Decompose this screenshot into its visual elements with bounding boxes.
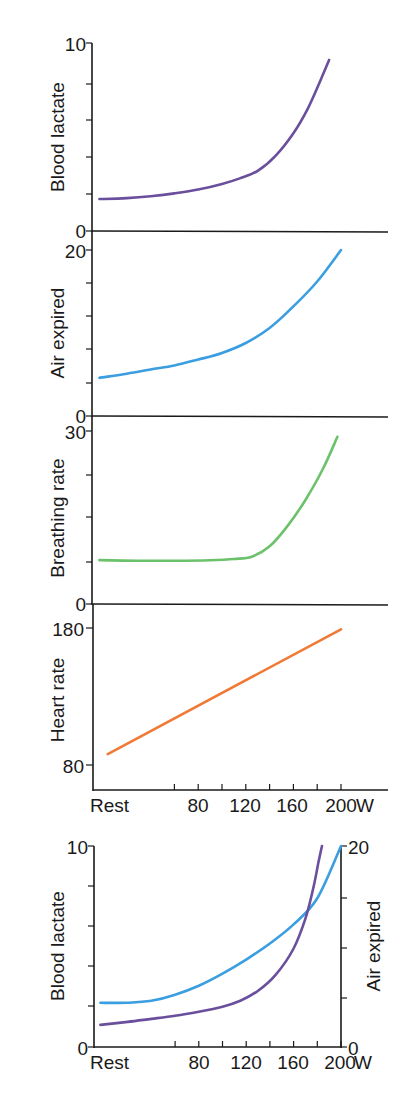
x-tick-label-80: 80: [188, 1052, 209, 1073]
x-tick-label-rest: Rest: [90, 1052, 130, 1073]
x-axis-divider: [92, 416, 388, 417]
y-axis-title-left: Blood lactate: [47, 891, 68, 1001]
x-tick-label-160: 160: [277, 1052, 309, 1073]
x-axis-divider: [92, 231, 388, 232]
panel-breathing-rate: Breathing rate 30 0: [47, 416, 388, 615]
x-tick-label-160: 160: [276, 795, 308, 816]
panel-air-expired: Air expired 20 0: [47, 231, 388, 427]
heart-rate-line: [108, 629, 341, 754]
x-tick-label-120: 120: [229, 795, 261, 816]
panel-blood-lactate: Blood lactate 10 0: [47, 34, 388, 242]
y-axis-title: Blood lactate: [47, 82, 68, 192]
air-expired-line: [99, 250, 341, 378]
x-tick-label-80: 80: [187, 795, 208, 816]
blood-lactate-line: [99, 60, 329, 199]
y-axis-title-right: Air expired: [363, 901, 384, 992]
x-ticks: [175, 1041, 341, 1047]
x-tick-label-120: 120: [230, 1052, 262, 1073]
panel-combined: Blood lactate Air expired 10 0 20 0 Rest…: [47, 837, 384, 1073]
x-tick-label-200: 200: [325, 795, 357, 816]
physiology-charts: Blood lactate 10 0 Air expired 20 0 Brea…: [0, 0, 414, 1108]
y-tick-label-left-top: 10: [67, 837, 88, 858]
x-tick-label-rest: Rest: [90, 795, 130, 816]
y-tick-label-top: 10: [65, 34, 86, 55]
x-axis-divider: [92, 604, 388, 605]
breathing-rate-line: [99, 437, 337, 561]
y-tick-label-bottom: 0: [75, 221, 86, 242]
y-axis-title: Heart rate: [47, 658, 68, 742]
panel-heart-rate: Heart rate 180 80 Rest 80 120 160 200 W: [47, 604, 388, 816]
y-tick-label-left-bottom: 0: [77, 1038, 88, 1059]
x-tick-label-200: 200: [324, 1052, 356, 1073]
x-unit-label: W: [354, 1052, 372, 1073]
x-unit-label: W: [356, 795, 374, 816]
y-tick-label-top: 180: [52, 619, 84, 640]
y-tick-label-top: 20: [65, 241, 86, 262]
x-ticks: [174, 784, 341, 790]
blood-lactate-line: [100, 846, 322, 1025]
y-tick-label-right-top: 20: [348, 837, 369, 858]
air-expired-line: [100, 846, 341, 1003]
y-axis-title: Air expired: [47, 288, 68, 379]
y-tick-label-bottom: 0: [75, 594, 86, 615]
y-tick-label-top: 30: [65, 422, 86, 443]
y-axis-title: Breathing rate: [47, 458, 68, 577]
y-tick-label-bottom: 80: [63, 756, 84, 777]
